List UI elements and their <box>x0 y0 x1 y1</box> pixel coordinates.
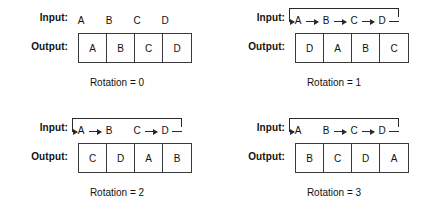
wrap-arrow-tail-segment <box>389 21 399 22</box>
output-cell: D <box>163 34 191 62</box>
arrow-icon <box>145 131 157 132</box>
output-row-label: Output: <box>223 151 285 162</box>
panel-rotation-1: Input: Output: ABCD DABC Rotation = 1 <box>217 0 433 110</box>
output-cell: C <box>380 34 408 62</box>
arrow-icon <box>334 21 346 22</box>
panel-caption: Rotation = 1 <box>217 77 433 88</box>
output-cell: D <box>352 144 380 172</box>
output-cell: A <box>79 34 107 62</box>
output-cell: D <box>296 34 324 62</box>
wrap-arrow-tail-segment <box>389 131 399 132</box>
wrap-arrow-top-segment <box>72 118 182 119</box>
output-cell: C <box>79 144 107 172</box>
wrap-arrow-right-segment <box>398 8 399 17</box>
output-cell: A <box>135 144 163 172</box>
arrow-icon <box>306 21 318 22</box>
panel-caption: Rotation = 3 <box>217 187 433 198</box>
panel-caption-text: Rotation = 3 <box>289 187 361 198</box>
panel-caption-text: Rotation = 0 <box>72 77 144 88</box>
arrow-icon <box>362 21 374 22</box>
output-boxes: ABCD <box>78 33 192 63</box>
output-cell: A <box>324 34 352 62</box>
output-cell: D <box>107 144 135 172</box>
input-letter: B <box>102 15 116 27</box>
input-letter: C <box>130 15 144 27</box>
output-cell: B <box>107 34 135 62</box>
panel-rotation-3: Input: Output: ABCD BCDA Rotation = 3 <box>217 110 433 220</box>
input-sequence: ABCD <box>289 118 427 142</box>
input-letter: B <box>319 125 333 137</box>
output-row-label: Output: <box>6 41 68 52</box>
panel-caption: Rotation = 2 <box>0 187 216 198</box>
input-letter: D <box>158 125 172 137</box>
output-cell: B <box>163 144 191 172</box>
input-row-label: Input: <box>6 122 68 133</box>
output-boxes: DABC <box>295 33 409 63</box>
arrow-icon <box>89 131 101 132</box>
output-cell: B <box>296 144 324 172</box>
input-row-label: Input: <box>6 12 68 23</box>
input-letter: D <box>158 15 172 27</box>
input-letter: A <box>74 15 88 27</box>
wrap-arrow-tail-segment <box>172 131 182 132</box>
panel-caption: Rotation = 0 <box>0 77 216 88</box>
wrap-arrow-right-segment <box>181 118 182 127</box>
input-letter: C <box>130 125 144 137</box>
arrow-icon <box>362 131 374 132</box>
output-boxes: BCDA <box>295 143 409 173</box>
output-cell: C <box>324 144 352 172</box>
input-letter: A <box>291 15 305 27</box>
input-letter: D <box>375 125 389 137</box>
input-sequence: ABCD <box>72 8 210 32</box>
output-row-label: Output: <box>6 151 68 162</box>
output-boxes: CDAB <box>78 143 192 173</box>
input-row-label: Input: <box>223 12 285 23</box>
input-letter: A <box>74 125 88 137</box>
input-letter: D <box>375 15 389 27</box>
input-letter: C <box>347 125 361 137</box>
input-row-label: Input: <box>223 122 285 133</box>
arrow-icon <box>334 131 346 132</box>
output-cell: C <box>135 34 163 62</box>
wrap-arrow-top-segment <box>289 118 399 119</box>
input-letter: A <box>291 125 305 137</box>
input-letter: B <box>319 15 333 27</box>
input-letter: C <box>347 15 361 27</box>
input-sequence: ABCD <box>289 8 427 32</box>
output-cell: B <box>352 34 380 62</box>
output-row-label: Output: <box>223 41 285 52</box>
panel-caption-text: Rotation = 1 <box>289 77 361 88</box>
output-cell: A <box>380 144 408 172</box>
input-letter: B <box>102 125 116 137</box>
panel-caption-text: Rotation = 2 <box>72 187 144 198</box>
input-sequence: ABCD <box>72 118 210 142</box>
panel-rotation-2: Input: Output: ABCD CDAB Rotation = 2 <box>0 110 216 220</box>
panel-rotation-0: Input: Output: ABCD ABCD Rotation = 0 <box>0 0 216 110</box>
wrap-arrow-top-segment <box>289 8 399 9</box>
wrap-arrow-right-segment <box>398 118 399 127</box>
